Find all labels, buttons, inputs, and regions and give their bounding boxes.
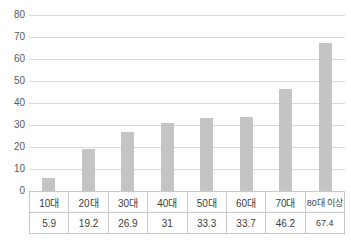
- y-tick-label-0: 0: [0, 185, 25, 197]
- bar-slot-60대: [227, 15, 267, 191]
- y-tick-label-10: 10: [0, 163, 25, 175]
- y-tick-label-60: 60: [0, 53, 25, 65]
- chart-data-table: 10대20대30대40대50대60대70대80대 이상 5.919.226.93…: [29, 191, 345, 234]
- table-header-cell-50대: 50대: [187, 192, 226, 213]
- y-axis: 01020304050607080: [0, 15, 25, 191]
- table-value-cell-20대: 19.2: [69, 213, 108, 234]
- table-header-cell-40대: 40대: [148, 192, 187, 213]
- bar-60대: [240, 117, 253, 191]
- bar-20대: [82, 149, 95, 191]
- bar-slot-30대: [108, 15, 148, 191]
- table-value-cell-40대: 31: [148, 213, 187, 234]
- bar-80대 이상: [319, 43, 332, 191]
- y-tick-label-30: 30: [0, 119, 25, 131]
- bar-slot-20대: [69, 15, 109, 191]
- y-tick-label-40: 40: [0, 97, 25, 109]
- bar-70대: [279, 89, 292, 191]
- bar-chart-figure: 01020304050607080 10대20대30대40대50대60대70대8…: [0, 0, 351, 246]
- bar-slot-40대: [148, 15, 188, 191]
- table-header-cell-80대 이상: 80대 이상: [305, 192, 344, 213]
- y-tick-label-70: 70: [0, 31, 25, 43]
- table-value-cell-60대: 33.7: [226, 213, 265, 234]
- value-row: 5.919.226.93133.333.746.267.4: [30, 213, 345, 234]
- table-header-cell-20대: 20대: [69, 192, 108, 213]
- y-tick-label-50: 50: [0, 75, 25, 87]
- table-header-cell-30대: 30대: [108, 192, 147, 213]
- bar-slot-10대: [29, 15, 69, 191]
- bar-slot-50대: [187, 15, 227, 191]
- y-tick-label-80: 80: [0, 9, 25, 21]
- table-value-cell-80대 이상: 67.4: [305, 213, 344, 234]
- table-value-cell-70대: 46.2: [266, 213, 305, 234]
- bar-series: [29, 15, 345, 191]
- table-header-cell-70대: 70대: [266, 192, 305, 213]
- bar-50대: [200, 118, 213, 191]
- category-row: 10대20대30대40대50대60대70대80대 이상: [30, 192, 345, 213]
- bar-slot-80대 이상: [306, 15, 346, 191]
- bar-slot-70대: [266, 15, 306, 191]
- y-tick-label-20: 20: [0, 141, 25, 153]
- bar-10대: [42, 178, 55, 191]
- bar-40대: [161, 123, 174, 191]
- table-header-cell-60대: 60대: [226, 192, 265, 213]
- table-header-cell-10대: 10대: [30, 192, 69, 213]
- plot-area: [29, 15, 345, 191]
- table-value-cell-30대: 26.9: [108, 213, 147, 234]
- table-value-cell-10대: 5.9: [30, 213, 69, 234]
- table-value-cell-50대: 33.3: [187, 213, 226, 234]
- bar-30대: [121, 132, 134, 191]
